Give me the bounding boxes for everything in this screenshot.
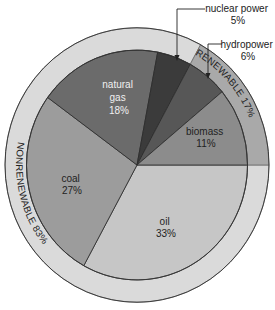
label-coal: coal 27% xyxy=(61,173,82,196)
callout-label-hydropower: hydropower 6% xyxy=(220,39,275,62)
pie-slices xyxy=(26,50,247,280)
pie-group: NONRENEWABLE 83% RENEWABLE 17% xyxy=(5,28,269,303)
energy-sources-pie-chart: NONRENEWABLE 83% RENEWABLE 17% natural g… xyxy=(0,0,275,310)
callout-label-nuclear: nuclear power 5% xyxy=(205,3,271,26)
